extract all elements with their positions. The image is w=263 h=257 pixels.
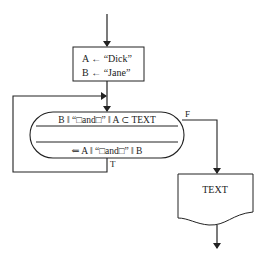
loop-condition-text: B ‖ “□and□” ‖ A ⊂ TEXT — [58, 115, 156, 125]
output-document-shape — [178, 174, 253, 225]
document-label: TEXT — [202, 184, 228, 195]
false-label: F — [185, 109, 190, 119]
assign-a-text: A ← “Dick” — [82, 53, 132, 64]
false-branch-arrow — [182, 120, 217, 173]
flowchart-canvas: A ← “Dick” B ← “Jane” B ‖ “□and□” ‖ A ⊂ … — [0, 0, 263, 257]
assign-b-text: B ← “Jane” — [82, 67, 130, 78]
true-label: T — [110, 159, 116, 169]
loop-action-text: ⇐ A ‖ “□and□” ‖ B — [72, 146, 143, 156]
